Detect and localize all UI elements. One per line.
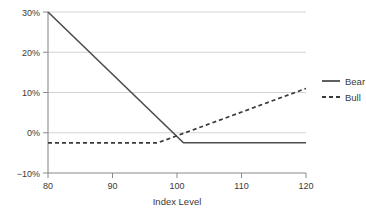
chart-container: 30% 20% 10% 0% −10% 80 90 100 110 120 In… [0, 0, 366, 214]
x-tick-label-90: 90 [107, 181, 117, 191]
y-tick-label-30: 30% [22, 8, 40, 18]
x-axis-ticks [48, 173, 306, 178]
x-axis-title: Index Level [153, 196, 202, 207]
x-tick-label-100: 100 [169, 181, 184, 191]
x-tick-label-110: 110 [234, 181, 248, 191]
legend-label-bear: Bear [345, 76, 365, 87]
chart-legend: Bear Bull [322, 76, 365, 103]
line-chart: 30% 20% 10% 0% −10% 80 90 100 110 120 In… [0, 0, 366, 214]
y-tick-label-10: 10% [22, 88, 40, 98]
y-tick-label-0: 0% [27, 128, 40, 138]
x-tick-label-80: 80 [43, 181, 53, 191]
y-tick-label-neg10: −10% [17, 169, 40, 179]
y-tick-label-20: 20% [22, 48, 40, 58]
x-tick-label-120: 120 [298, 181, 313, 191]
legend-label-bull: Bull [345, 92, 361, 103]
y-axis-ticks [43, 12, 48, 173]
